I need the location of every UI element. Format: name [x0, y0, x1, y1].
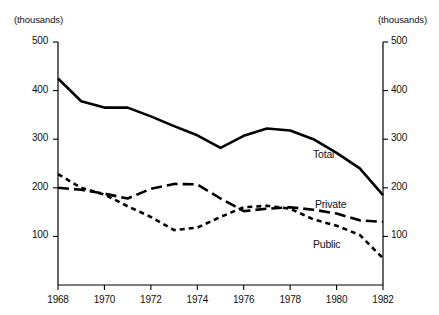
x-tick-label: 1968 — [38, 294, 78, 305]
y-tick-label-left: 200 — [18, 181, 48, 192]
bottom-axis-ticks — [58, 285, 383, 290]
series-paths — [58, 78, 383, 258]
x-tick-label: 1972 — [131, 294, 171, 305]
y-tick-label-right: 200 — [391, 181, 421, 192]
x-tick-label: 1980 — [317, 294, 357, 305]
left-axis-ticks — [53, 42, 58, 236]
y-tick-label-right: 100 — [391, 229, 421, 240]
y-tick-label-left: 500 — [18, 35, 48, 46]
y-tick-label-left: 100 — [18, 229, 48, 240]
right-axis-ticks — [383, 42, 388, 236]
series-label-private: Private — [315, 198, 346, 210]
series-label-total: Total — [313, 148, 334, 160]
y-tick-label-left: 400 — [18, 84, 48, 95]
series-label-public: Public — [313, 238, 340, 250]
x-tick-label: 1978 — [270, 294, 310, 305]
series-line-total — [58, 78, 383, 195]
x-tick-label: 1970 — [84, 294, 124, 305]
y-tick-label-right: 500 — [391, 35, 421, 46]
line-chart: (thousands) (thousands) 100200300400500 … — [0, 0, 439, 315]
x-tick-label: 1974 — [177, 294, 217, 305]
y-tick-label-left: 300 — [18, 132, 48, 143]
plot-area — [0, 0, 439, 315]
x-tick-label: 1982 — [363, 294, 403, 305]
x-tick-label: 1976 — [224, 294, 264, 305]
y-tick-label-right: 400 — [391, 84, 421, 95]
y-tick-label-right: 300 — [391, 132, 421, 143]
